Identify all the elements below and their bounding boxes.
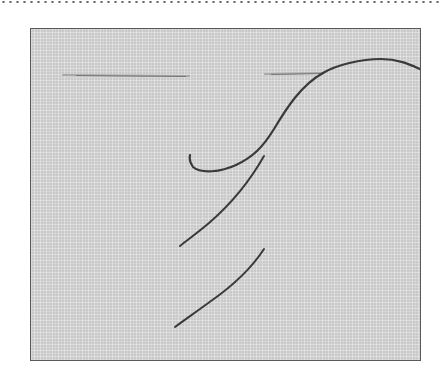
working-thread xyxy=(323,59,420,73)
thread-loop xyxy=(190,73,323,171)
stitch-illustration xyxy=(31,29,420,360)
fabric-swatch xyxy=(30,28,421,361)
dotted-divider xyxy=(0,0,441,4)
diagonal-stitch-2 xyxy=(175,249,264,327)
needle xyxy=(63,73,323,77)
